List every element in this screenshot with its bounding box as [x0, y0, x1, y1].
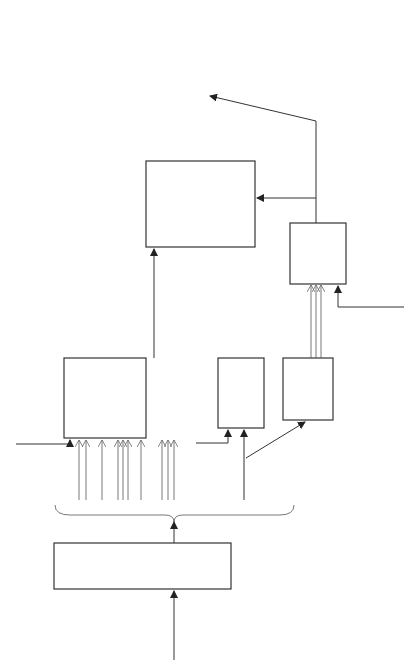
brace	[55, 505, 294, 522]
cost-correlations-box	[283, 358, 333, 420]
revenue-variable-cost-box	[64, 358, 146, 438]
process-model-box	[54, 543, 231, 589]
multiplication-factors-arrow	[338, 286, 404, 307]
cost-estimation-flow-diagram	[0, 0, 411, 670]
operating-labor-box	[218, 358, 264, 428]
manufacturing-costs-box	[146, 161, 255, 247]
capital-cost-box	[290, 223, 346, 284]
operating-requirements-arrow	[196, 430, 228, 443]
prices-arrow	[16, 440, 70, 444]
